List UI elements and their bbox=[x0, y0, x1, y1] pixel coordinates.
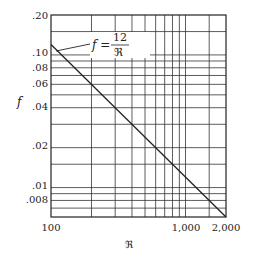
y-tick-label: .04 bbox=[32, 101, 48, 112]
x-axis-label: ℜ bbox=[125, 239, 134, 250]
y-tick-label: .02 bbox=[32, 140, 48, 151]
x-tick-label: 1,000 bbox=[172, 222, 201, 233]
x-tick-label: 100 bbox=[41, 222, 60, 233]
annotation-leader bbox=[56, 44, 90, 51]
x-tick-label: 2,000 bbox=[212, 222, 241, 233]
y-tick-label: .08 bbox=[32, 62, 48, 73]
y-tick-label: .10 bbox=[32, 47, 48, 58]
y-axis-label: f bbox=[16, 95, 24, 109]
series-line bbox=[51, 44, 226, 217]
y-tick-label: .20 bbox=[32, 10, 48, 21]
chart: f = 12 ℜ .20 .10 .08 .06 .04 .02 .01 .00… bbox=[0, 0, 255, 263]
annotation-lhs: f = bbox=[91, 38, 110, 52]
annotation-numerator: 12 bbox=[113, 31, 127, 44]
y-tick-label: .008 bbox=[26, 194, 48, 205]
annotation-denominator: ℜ bbox=[114, 46, 123, 59]
y-tick-label: .01 bbox=[32, 180, 48, 191]
y-tick-label: .06 bbox=[32, 78, 48, 89]
